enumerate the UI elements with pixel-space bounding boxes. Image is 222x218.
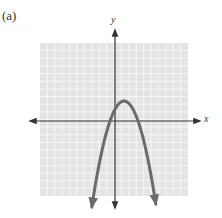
parabola-graph bbox=[0, 0, 222, 218]
